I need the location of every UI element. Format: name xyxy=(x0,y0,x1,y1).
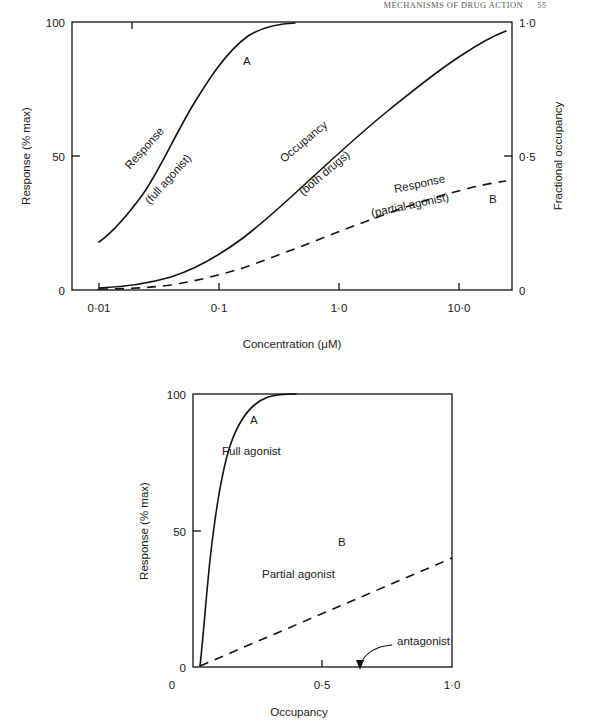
bottom-chart-ylabel-50: 50 xyxy=(173,526,186,538)
bottom-chart-label-full-agonist: Full agonist xyxy=(222,445,282,457)
top-chart-annotation-full-agonist-line1: Response xyxy=(123,125,167,172)
top-chart-annotation-occupancy-line2: (both drugs) xyxy=(297,148,352,197)
bottom-chart-ylabel-0: 0 xyxy=(180,662,186,674)
top-chart-ylabel-100: 100 xyxy=(46,17,65,29)
bottom-chart-label-antagonist: antagonist xyxy=(397,635,451,647)
top-chart-series-letter-a: A xyxy=(243,55,251,67)
top-chart-ylabel-right-0: 0 xyxy=(519,285,525,297)
top-chart-y-axis-title: Response (% max) xyxy=(20,107,32,205)
top-chart-annotation-partial-agonist-line1: Response xyxy=(393,172,446,195)
antagonist-arrow-head xyxy=(356,660,364,670)
top-chart: 100 50 0 1·0 0·5 0 0·01 0·1 1·0 10·0 Res… xyxy=(20,17,564,350)
top-chart-curve-occupancy xyxy=(99,31,506,288)
top-chart-annotation-occupancy-line1: Occupancy xyxy=(278,118,330,164)
top-chart-ylabel-right-05: 0·5 xyxy=(519,151,536,163)
bottom-chart-xlabel-05: 0·5 xyxy=(314,679,331,691)
bottom-chart-y-axis-title: Response (% max) xyxy=(138,482,150,580)
top-chart-x-axis-title: Concentration (μM) xyxy=(243,338,342,350)
top-chart-ylabel-right-10: 1·0 xyxy=(519,17,536,29)
bottom-chart-x-axis-title: Occupancy xyxy=(270,706,328,718)
antagonist-arrow-line xyxy=(360,645,392,666)
top-chart-xlabel-0: 0·01 xyxy=(87,302,110,314)
bottom-chart-plot-frame xyxy=(193,394,452,667)
top-chart-annotation-partial-agonist-line2: (partial agonist) xyxy=(370,191,450,219)
bottom-chart-xlabel-10: 1·0 xyxy=(444,679,461,691)
top-chart-xlabel-2: 1·0 xyxy=(331,302,348,314)
bottom-chart-label-partial-agonist: Partial agonist xyxy=(262,568,336,580)
top-chart-y-axis-title-right: Fractional occupancy xyxy=(552,101,564,210)
bottom-chart-series-letter-a: A xyxy=(250,414,258,426)
figure-container: 100 50 0 1·0 0·5 0 0·01 0·1 1·0 10·0 Res… xyxy=(0,0,599,723)
bottom-chart: 100 50 0 0 0·5 1·0 Response (% max) Occu… xyxy=(138,389,460,718)
top-chart-series-letter-b: B xyxy=(489,193,497,205)
top-chart-ylabel-0: 0 xyxy=(59,285,65,297)
bottom-chart-series-letter-b: B xyxy=(338,536,346,548)
top-chart-xlabel-3: 10·0 xyxy=(447,302,470,314)
top-chart-ylabel-50: 50 xyxy=(52,151,65,163)
top-chart-xlabel-1: 0·1 xyxy=(211,302,228,314)
bottom-chart-xlabel-0: 0 xyxy=(169,679,175,691)
top-chart-curve-full-agonist xyxy=(99,23,295,242)
top-chart-annotation-full-agonist-line2: (full agonist) xyxy=(143,152,194,207)
bottom-chart-ylabel-100: 100 xyxy=(167,389,186,401)
bottom-chart-curve-full-agonist xyxy=(200,394,296,666)
